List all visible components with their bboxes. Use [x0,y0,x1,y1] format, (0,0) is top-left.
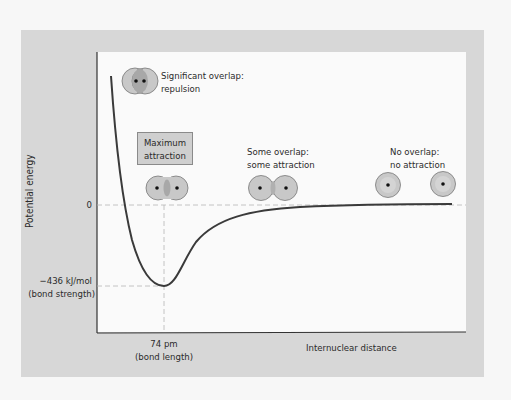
molecule-no-overlap-icon [376,172,456,198]
energy-min-value: −436 kJ/mol [28,275,92,287]
x-axis-label: Internuclear distance [306,342,397,354]
bond-length-note: (bond length) [124,351,204,363]
bond-length-value: 74 pm [124,338,204,350]
no-overlap-label-line2: no attraction [390,159,445,171]
maximum-label-line2: attraction [138,149,192,162]
x-axis [97,332,466,333]
some-overlap-label-line1: Some overlap: [247,146,309,158]
repulsion-label-line2: repulsion [161,83,200,95]
some-overlap-label-line2: some attraction [247,159,315,171]
maximum-attraction-box: Maximum attraction [137,132,193,165]
energy-min-note: (bond strength) [22,288,95,300]
repulsion-label-line1: Significant overlap: [161,70,244,82]
y-axis-label: Potential energy [24,154,35,228]
molecule-some-overlap-icon [249,176,298,201]
zero-tick-label: 0 [70,199,92,211]
no-overlap-label-line1: No overlap: [390,146,439,158]
molecule-significant-overlap-icon [122,68,158,94]
maximum-label-line1: Maximum [138,136,192,149]
molecule-maximum-attraction-icon [146,176,188,200]
